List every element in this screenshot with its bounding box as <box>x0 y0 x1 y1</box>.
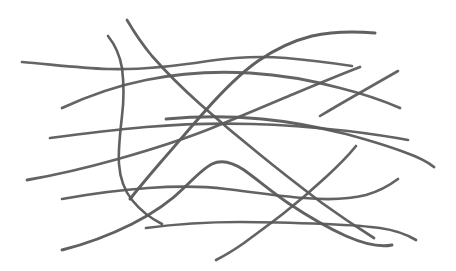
drawing-canvas: A hand-drawn black-and-white sketch of a… <box>0 0 456 271</box>
fiber-network-drawing: A hand-drawn black-and-white sketch of a… <box>0 0 456 271</box>
